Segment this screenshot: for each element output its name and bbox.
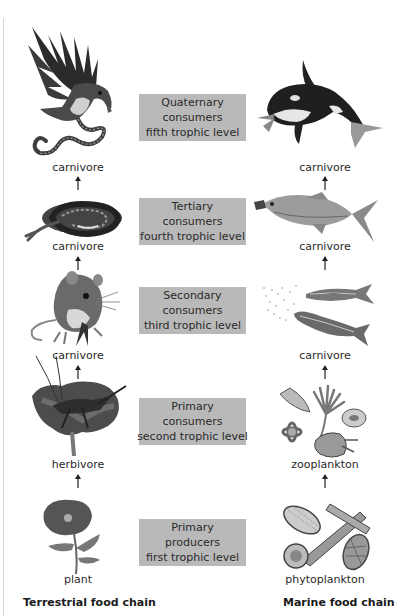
arrow-up-icon xyxy=(320,256,330,270)
box-line-1: Quaternary xyxy=(161,95,224,110)
box-line-3: third trophic level xyxy=(144,318,241,333)
marine-label-level5: carnivore xyxy=(265,161,385,174)
box-line-1: Primary xyxy=(171,520,214,535)
arrow-up-icon xyxy=(320,365,330,379)
orca-illustration xyxy=(255,52,385,152)
box-line-2: consumers xyxy=(162,414,222,429)
box-line-2: consumers xyxy=(162,303,222,318)
arrow-up-icon xyxy=(73,176,83,190)
box-line-3: fourth trophic level xyxy=(140,229,245,244)
box-line-3: second trophic level xyxy=(137,429,248,444)
snake-illustration xyxy=(22,196,132,242)
diatoms-illustration xyxy=(280,500,372,574)
trophic-level-box-primary-producers: Primary producers first trophic level xyxy=(139,519,246,566)
poppy-plant-illustration xyxy=(40,498,110,574)
box-line-2: consumers xyxy=(162,110,222,125)
trophic-level-box-secondary: Secondary consumers third trophic level xyxy=(139,287,246,334)
box-line-3: first trophic level xyxy=(146,550,239,565)
trophic-level-box-tertiary: Tertiary consumers fourth trophic level xyxy=(139,198,246,245)
grasshopper-on-flower-illustration xyxy=(22,356,134,456)
marine-column-title: Marine food chain xyxy=(283,596,395,610)
arrow-up-icon xyxy=(73,474,83,488)
eagle-with-snake-illustration xyxy=(18,15,128,163)
box-line-2: consumers xyxy=(162,214,222,229)
box-line-1: Tertiary xyxy=(172,199,213,214)
mouse-illustration xyxy=(26,270,121,348)
terrestrial-label-level5: carnivore xyxy=(18,161,138,174)
terrestrial-label-level1: plant xyxy=(18,573,138,586)
box-line-3: fifth trophic level xyxy=(146,125,239,140)
terrestrial-label-level4: carnivore xyxy=(18,240,138,253)
marine-label-level2: zooplankton xyxy=(265,458,385,471)
marine-label-level1: phytoplankton xyxy=(265,573,385,586)
terrestrial-column-title: Terrestrial food chain xyxy=(23,596,156,610)
marine-label-level3: carnivore xyxy=(265,349,385,362)
terrestrial-label-level2: herbivore xyxy=(18,458,138,471)
trophic-level-box-primary-consumers: Primary consumers second trophic level xyxy=(139,398,246,445)
left-edge-line xyxy=(3,18,4,616)
large-fish-illustration xyxy=(252,190,382,245)
arrow-up-icon xyxy=(73,256,83,270)
box-line-1: Secondary xyxy=(163,288,221,303)
marine-label-level4: carnivore xyxy=(265,240,385,253)
trophic-level-box-quaternary: Quaternary consumers fifth trophic level xyxy=(139,94,246,141)
small-fish-illustration xyxy=(260,280,385,346)
arrow-up-icon xyxy=(320,474,330,488)
zooplankton-illustration xyxy=(270,384,382,462)
arrow-up-icon xyxy=(320,176,330,190)
box-line-1: Primary xyxy=(171,399,214,414)
box-line-2: producers xyxy=(165,535,220,550)
